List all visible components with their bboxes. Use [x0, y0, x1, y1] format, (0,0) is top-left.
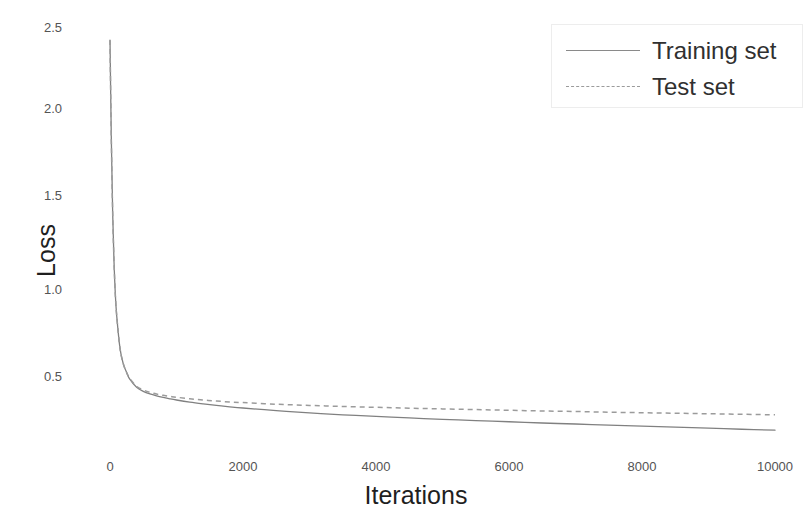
legend-swatch-dashed-line-icon — [566, 80, 640, 94]
xtick-label-10000: 10000 — [745, 459, 805, 474]
loss-curve-figure: 2.5 2.0 1.5 1.0 0.5 0 2000 4000 6000 800… — [0, 0, 812, 521]
chart-legend: Training set Test set — [551, 24, 803, 108]
xtick-label-2000: 2000 — [213, 459, 273, 474]
x-axis-title: Iterations — [336, 481, 496, 510]
xtick-label-4000: 4000 — [346, 459, 406, 474]
ytick-label-2-0: 2.0 — [16, 101, 62, 116]
legend-item-training-set: Training set — [552, 33, 802, 69]
xtick-label-6000: 6000 — [479, 459, 539, 474]
xtick-label-0: 0 — [80, 459, 140, 474]
xtick-label-8000: 8000 — [612, 459, 672, 474]
ytick-label-2-5: 2.5 — [16, 20, 62, 35]
legend-label-test-set: Test set — [652, 73, 735, 101]
legend-label-training-set: Training set — [652, 37, 777, 65]
legend-swatch-solid-line-icon — [566, 44, 640, 58]
legend-item-test-set: Test set — [552, 69, 802, 105]
ytick-label-0-5: 0.5 — [16, 369, 62, 384]
y-axis-title: Loss — [32, 191, 61, 311]
